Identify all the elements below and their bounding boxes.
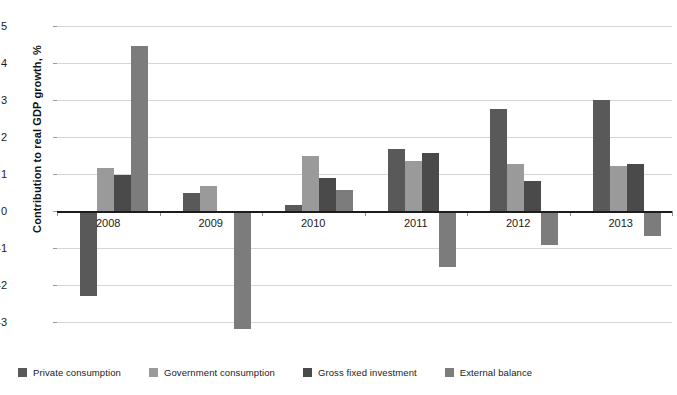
bar [200,186,217,211]
legend-item-label: External balance [460,367,532,378]
y-axis-tick-label: 3 [0,95,7,106]
gridline [57,248,672,249]
y-axis-tick-mark [53,63,57,64]
bar [388,149,405,211]
bar [405,161,422,211]
bar [131,46,148,211]
bar [627,164,644,211]
legend-item[interactable]: Government consumption [149,367,275,378]
gridline [57,285,672,286]
y-axis-tick-mark [53,248,57,249]
bar [336,190,353,211]
y-axis-tick-mark [53,322,57,323]
y-axis-tick-mark [53,137,57,138]
bar [593,100,610,211]
bar [422,153,439,211]
bar [507,164,524,211]
y-axis-tick-label: 5 [0,21,7,32]
bar [610,166,627,211]
legend-swatch-icon [303,368,312,377]
y-axis-tick-mark [53,285,57,286]
gridline [57,100,672,101]
legend-item-label: Private consumption [33,367,121,378]
y-axis-title: Contribution to real GDP growth, % [31,39,43,239]
x-axis-tick-label: 2009 [160,217,263,229]
legend-item[interactable]: Gross fixed investment [303,367,417,378]
legend-item-label: Government consumption [164,367,275,378]
x-axis-tick-mark [672,211,673,216]
y-axis-tick-label: 0 [0,206,7,217]
bar-chart: Contribution to real GDP growth, % 54321… [0,0,677,395]
chart-legend: Private consumptionGovernment consumptio… [18,365,560,379]
bar [319,178,336,211]
x-axis-tick-label: 2012 [467,217,570,229]
y-axis-tick-label: 2 [0,132,7,143]
bar [114,175,131,211]
x-axis-tick-label: 2010 [262,217,365,229]
gridline [57,26,672,27]
gridline [57,174,672,175]
bar [490,109,507,211]
bar [524,181,541,211]
y-axis-tick-label: 4 [0,58,7,69]
legend-item-label: Gross fixed investment [318,367,417,378]
y-axis-tick-mark [53,100,57,101]
legend-swatch-icon [445,368,454,377]
y-axis-tick-label: 1 [0,169,7,180]
bar [302,156,319,211]
x-axis-tick-label: 2008 [57,217,160,229]
plot-area: 543210-1-2-3 200820092010201120122013 [57,26,672,322]
zero-axis-line [57,211,672,213]
x-axis-tick-label: 2013 [570,217,673,229]
y-axis-tick-label: -3 [0,317,7,328]
y-axis-tick-label: -1 [0,243,7,254]
legend-swatch-icon [149,368,158,377]
y-axis-tick-label: -2 [0,280,7,291]
gridline [57,63,672,64]
y-axis-tick-mark [53,26,57,27]
gridline [57,322,672,323]
bar [97,168,114,211]
legend-item[interactable]: External balance [445,367,532,378]
gridline [57,137,672,138]
legend-item[interactable]: Private consumption [18,367,121,378]
x-axis-tick-label: 2011 [365,217,468,229]
bar [183,193,200,211]
y-axis-tick-mark [53,174,57,175]
legend-swatch-icon [18,368,27,377]
